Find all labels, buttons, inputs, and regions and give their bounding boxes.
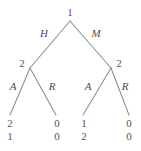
payoff-player1-value: 1 <box>77 117 91 130</box>
node-label-left-player2: 2 <box>16 58 28 69</box>
game-tree-figure: 1 2 2 H M A R A R 2 1 0 0 1 2 0 0 <box>0 0 141 151</box>
payoff-leaf-2: 0 0 <box>50 117 64 142</box>
payoff-player2-value: 0 <box>50 130 64 143</box>
action-label-h: H <box>38 28 50 39</box>
action-label-m: M <box>89 28 103 39</box>
payoff-player1-value: 2 <box>3 117 17 130</box>
payoff-player2-value: 0 <box>122 130 136 143</box>
node-label-right-player2: 2 <box>113 58 125 69</box>
action-label-right-reject: R <box>119 81 131 92</box>
action-label-right-accept: A <box>82 81 94 92</box>
payoff-player1-value: 0 <box>122 117 136 130</box>
payoff-leaf-4: 0 0 <box>122 117 136 142</box>
payoff-player2-value: 2 <box>77 130 91 143</box>
node-label-root-player1: 1 <box>64 7 76 18</box>
payoff-player2-value: 1 <box>3 130 17 143</box>
payoff-leaf-1: 2 1 <box>3 117 17 142</box>
action-label-left-reject: R <box>46 81 58 92</box>
tree-edges <box>0 0 141 151</box>
payoff-leaf-3: 1 2 <box>77 117 91 142</box>
action-label-left-accept: A <box>7 81 19 92</box>
payoff-player1-value: 0 <box>50 117 64 130</box>
edge-root-left <box>30 21 70 68</box>
